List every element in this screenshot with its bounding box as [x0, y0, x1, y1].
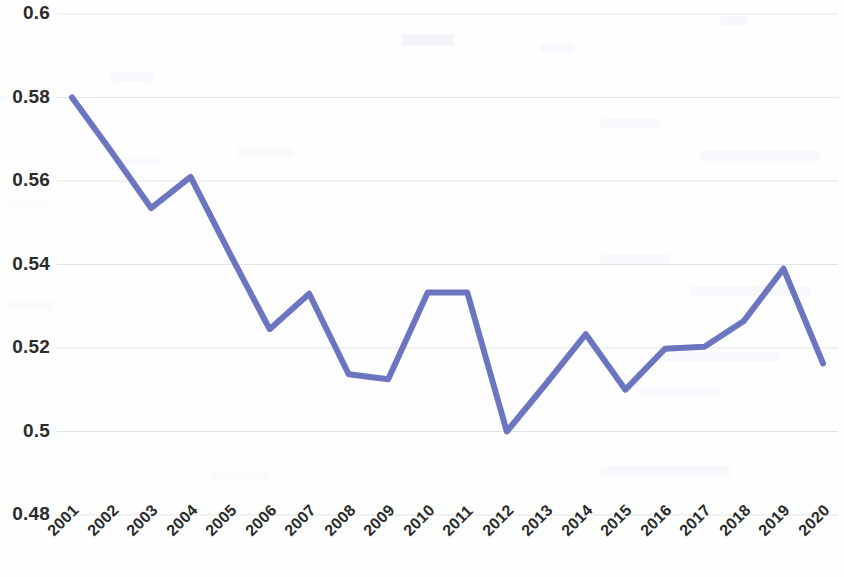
y-tick-label: 0.58	[0, 86, 50, 108]
plot-area	[0, 0, 844, 577]
y-tick-label: 0.48	[0, 503, 50, 525]
y-tick-label: 0.5	[0, 420, 50, 442]
y-tick-label: 0.56	[0, 169, 50, 191]
line-chart: 0.480.50.520.540.560.580.6 2001200220032…	[0, 0, 844, 577]
gridlines	[57, 14, 838, 515]
y-tick-label: 0.52	[0, 336, 50, 358]
y-tick-label: 0.54	[0, 253, 50, 275]
y-tick-label: 0.6	[0, 2, 50, 24]
